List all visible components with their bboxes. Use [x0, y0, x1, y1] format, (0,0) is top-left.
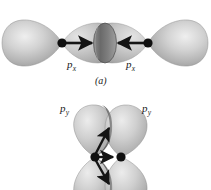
orbital-label-subscript: y [66, 108, 70, 117]
panel-a-caption: (a) [95, 76, 107, 86]
figure-canvas [0, 0, 211, 190]
nucleus-right-px [143, 38, 152, 47]
nucleus-right-py [116, 152, 125, 161]
orbital-label-px-right: px [126, 59, 135, 73]
panel-a-sigma-overlap [2, 20, 208, 66]
orbital-label-subscript: x [73, 64, 77, 73]
orbital-label-py-right: py [142, 103, 151, 117]
nucleus-left-px [57, 38, 66, 47]
orbital-label-px-left: px [67, 59, 76, 73]
orbital-lobe-outer-right [148, 20, 208, 66]
orbital-label-py-left: py [60, 103, 69, 117]
orbital-label-subscript: y [148, 108, 152, 117]
orbital-overlap-figure: px px (a) py py [0, 0, 211, 190]
orbital-lobe-outer-left [2, 20, 62, 66]
orbital-label-subscript: x [132, 64, 136, 73]
panel-b-pi-overlap [74, 105, 147, 190]
nucleus-left-py [90, 152, 99, 161]
